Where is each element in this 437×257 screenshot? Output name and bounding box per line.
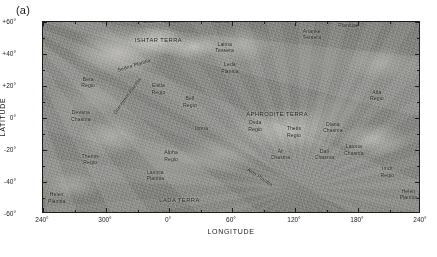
x-tick-label: 0° bbox=[165, 216, 171, 223]
x-tick-bottom bbox=[358, 208, 359, 212]
x-tick-label: 240° bbox=[413, 216, 426, 223]
y-tick-right bbox=[415, 182, 419, 183]
y-tick-label: -20° bbox=[4, 146, 16, 153]
x-tick-top bbox=[169, 22, 170, 26]
y-tick-minor-left bbox=[43, 198, 45, 199]
y-tick-minor-right bbox=[417, 102, 419, 103]
x-tick-minor-bottom bbox=[390, 210, 391, 212]
x-tick-bottom bbox=[106, 208, 107, 212]
x-tick-minor-bottom bbox=[138, 210, 139, 212]
x-tick-top bbox=[232, 22, 233, 26]
y-tick-right bbox=[415, 86, 419, 87]
x-tick-minor-bottom bbox=[75, 210, 76, 212]
x-tick-label: 60° bbox=[226, 216, 236, 223]
x-tick-minor-bottom bbox=[264, 210, 265, 212]
venus-radar-surface bbox=[43, 22, 419, 212]
map-plot-area: Lakshmi PlanumMaxwell MontesFortuna Tess… bbox=[42, 21, 420, 213]
y-tick-minor-left bbox=[43, 134, 45, 135]
x-tick-bottom bbox=[169, 208, 170, 212]
x-axis-title: LONGITUDE bbox=[207, 228, 254, 235]
x-tick-bottom bbox=[295, 208, 296, 212]
y-tick-label: +40° bbox=[2, 50, 16, 57]
y-tick-minor-left bbox=[43, 166, 45, 167]
y-tick-minor-left bbox=[43, 70, 45, 71]
x-tick-minor-top bbox=[138, 22, 139, 24]
x-tick-bottom bbox=[43, 208, 44, 212]
x-tick-top bbox=[106, 22, 107, 26]
y-tick-right bbox=[415, 150, 419, 151]
y-tick-left bbox=[43, 54, 47, 55]
y-tick-right bbox=[415, 118, 419, 119]
panel-label: (a) bbox=[16, 4, 30, 16]
y-tick-left bbox=[43, 182, 47, 183]
y-tick-label: +60° bbox=[2, 18, 16, 25]
x-tick-label: 240° bbox=[35, 216, 48, 223]
x-tick-minor-top bbox=[390, 22, 391, 24]
x-tick-minor-top bbox=[201, 22, 202, 24]
x-tick-minor-top bbox=[75, 22, 76, 24]
y-tick-minor-right bbox=[417, 38, 419, 39]
y-tick-right bbox=[415, 54, 419, 55]
y-tick-minor-right bbox=[417, 166, 419, 167]
x-tick-label: 300° bbox=[98, 216, 111, 223]
y-tick-minor-left bbox=[43, 38, 45, 39]
x-tick-top bbox=[43, 22, 44, 26]
x-tick-top bbox=[295, 22, 296, 26]
y-tick-minor-right bbox=[417, 198, 419, 199]
y-tick-minor-right bbox=[417, 134, 419, 135]
x-tick-minor-bottom bbox=[327, 210, 328, 212]
y-tick-left bbox=[43, 118, 47, 119]
x-tick-top bbox=[358, 22, 359, 26]
venus-map-figure: (a) LATITUDE LONGITUDE +60°+40°+20°0°-20… bbox=[0, 0, 437, 257]
y-tick-minor-left bbox=[43, 102, 45, 103]
x-tick-bottom bbox=[232, 208, 233, 212]
x-tick-minor-bottom bbox=[201, 210, 202, 212]
x-tick-label: 180° bbox=[350, 216, 363, 223]
y-tick-label: -60° bbox=[4, 210, 16, 217]
y-tick-left bbox=[43, 150, 47, 151]
x-tick-minor-top bbox=[327, 22, 328, 24]
y-tick-label: +20° bbox=[2, 82, 16, 89]
x-tick-label: 120° bbox=[287, 216, 300, 223]
y-tick-left bbox=[43, 86, 47, 87]
y-tick-label: -40° bbox=[4, 178, 16, 185]
y-tick-right bbox=[415, 22, 419, 23]
x-tick-minor-top bbox=[264, 22, 265, 24]
y-axis-title: LATITUDE bbox=[0, 98, 6, 137]
y-tick-label: 0° bbox=[10, 114, 16, 121]
y-tick-minor-right bbox=[417, 70, 419, 71]
